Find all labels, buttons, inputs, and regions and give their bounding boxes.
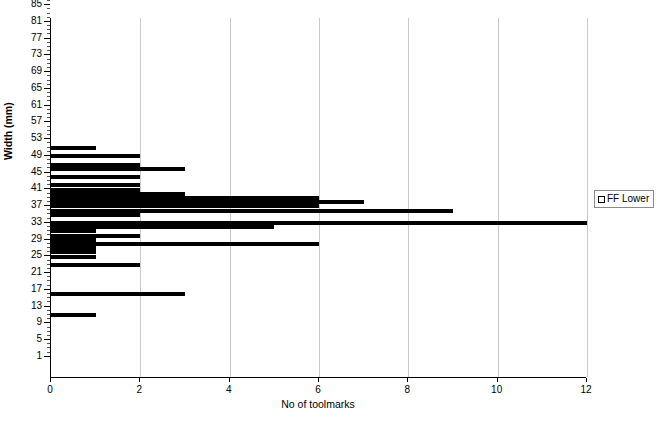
x-axis-title: No of toolmarks: [50, 398, 586, 410]
gridline-vertical: [319, 18, 320, 377]
y-tick-label: 61: [31, 100, 42, 110]
legend-label: FF Lower: [607, 193, 649, 205]
y-tick-label: 57: [31, 116, 42, 126]
bar: [51, 146, 96, 150]
bar: [51, 313, 96, 317]
y-tick-label: 21: [31, 267, 42, 277]
x-tick-label: 12: [571, 384, 601, 395]
bar: [51, 154, 140, 158]
y-tick-major: [44, 4, 50, 5]
plot-inner: [51, 18, 586, 377]
y-tick-label: 45: [31, 167, 42, 177]
x-tick-label: 6: [303, 384, 333, 395]
y-axis: 1591317212529333741454953576165697377818…: [0, 0, 50, 360]
bar: [51, 175, 140, 179]
bar: [51, 263, 140, 267]
y-tick-minor: [47, 13, 50, 14]
y-tick-label: 81: [31, 16, 42, 26]
y-tick-label: 53: [31, 133, 42, 143]
y-tick-label: 73: [31, 49, 42, 59]
bar: [51, 213, 140, 217]
bar: [51, 255, 96, 259]
bar: [51, 292, 185, 296]
y-tick-label: 29: [31, 234, 42, 244]
y-tick-label: 65: [31, 83, 42, 93]
legend-swatch-icon: [598, 196, 605, 203]
x-tick-label: 2: [124, 384, 154, 395]
x-tick-label: 4: [214, 384, 244, 395]
x-tick: [229, 378, 230, 382]
gridline-vertical: [408, 18, 409, 377]
legend: FF Lower: [594, 190, 654, 208]
y-tick-label: 25: [31, 250, 42, 260]
y-tick-label: 85: [31, 0, 42, 9]
bar: [51, 167, 185, 171]
gridline-vertical: [498, 18, 499, 377]
y-tick-label: 5: [36, 334, 42, 344]
y-tick-label: 37: [31, 200, 42, 210]
x-tick: [407, 378, 408, 382]
y-tick-label: 33: [31, 217, 42, 227]
y-tick-label: 13: [31, 301, 42, 311]
gridline-vertical: [587, 18, 588, 377]
x-tick: [497, 378, 498, 382]
y-tick-label: 17: [31, 284, 42, 294]
y-tick-label: 69: [31, 66, 42, 76]
plot-area: [50, 18, 586, 378]
y-tick-label: 1: [36, 351, 42, 361]
y-tick-minor: [47, 8, 50, 9]
x-tick-label: 10: [482, 384, 512, 395]
x-tick: [139, 378, 140, 382]
y-tick-label: 41: [31, 183, 42, 193]
x-tick-label: 0: [35, 384, 65, 395]
x-tick-label: 8: [392, 384, 422, 395]
y-tick-label: 49: [31, 150, 42, 160]
x-tick: [318, 378, 319, 382]
x-tick: [50, 378, 51, 382]
chart-container: Width (mm) 15913172125293337414549535761…: [0, 0, 664, 427]
x-tick: [586, 378, 587, 382]
y-tick-label: 9: [36, 317, 42, 327]
y-tick-minor: [47, 0, 50, 1]
y-tick-label: 77: [31, 33, 42, 43]
